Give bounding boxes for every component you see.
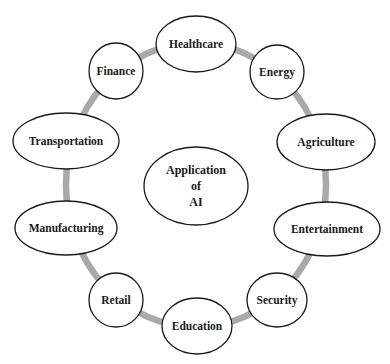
node-label-manufacturing: Manufacturing	[29, 222, 104, 235]
node-entertainment: Entertainment	[274, 202, 380, 256]
node-energy: Energy	[250, 45, 304, 99]
node-agriculture: Agriculture	[277, 114, 375, 170]
node-label-retail: Retail	[101, 294, 130, 306]
node-manufacturing: Manufacturing	[15, 201, 117, 255]
center-label-line-3: AI	[189, 195, 203, 209]
node-healthcare: Healthcare	[156, 16, 236, 72]
ai-applications-diagram: Application of AI Healthcare Energy Agri…	[0, 0, 390, 364]
node-transportation: Transportation	[13, 113, 119, 169]
node-label-energy: Energy	[259, 66, 295, 79]
node-label-education: Education	[172, 320, 223, 332]
node-label-security: Security	[257, 294, 298, 307]
node-education: Education	[162, 298, 232, 354]
center-label-line-1: Application	[166, 163, 226, 177]
node-retail: Retail	[89, 273, 143, 327]
node-label-agriculture: Agriculture	[297, 136, 354, 149]
node-label-finance: Finance	[97, 65, 136, 77]
center-node: Application of AI	[144, 147, 248, 225]
center-label-line-2: of	[191, 179, 202, 193]
node-label-healthcare: Healthcare	[169, 38, 223, 50]
node-label-transportation: Transportation	[29, 135, 104, 148]
node-label-entertainment: Entertainment	[291, 223, 363, 235]
node-finance: Finance	[89, 43, 143, 99]
node-security: Security	[247, 273, 307, 327]
